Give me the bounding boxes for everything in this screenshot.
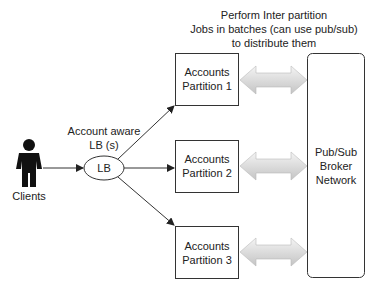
partition-2-line2: Partition 2 bbox=[182, 167, 232, 179]
partition-3-line1: Accounts bbox=[184, 240, 230, 252]
pubsub-broker-network: Pub/Sub Broker Network bbox=[308, 54, 365, 278]
broker-line3: Network bbox=[316, 174, 357, 186]
lb-caption-2: LB (s) bbox=[89, 139, 118, 151]
note-line-1: Perform Inter partition bbox=[221, 9, 327, 21]
partition-3-line2: Partition 3 bbox=[182, 254, 232, 266]
partition-2-line1: Accounts bbox=[184, 153, 230, 165]
double-arrow-1 bbox=[240, 66, 307, 94]
partition-1-line2: Partition 1 bbox=[182, 80, 232, 92]
lb-caption-1: Account aware bbox=[68, 125, 141, 137]
partition-1: Accounts Partition 1 bbox=[176, 54, 239, 106]
architecture-diagram: Perform Inter partition Jobs in batches … bbox=[0, 0, 379, 290]
partition-3: Accounts Partition 3 bbox=[176, 227, 239, 279]
partition-2: Accounts Partition 2 bbox=[176, 141, 239, 193]
lb-label: LB bbox=[97, 162, 110, 174]
broker-line2: Broker bbox=[320, 160, 353, 172]
clients-label: Clients bbox=[12, 190, 46, 202]
lb-to-partition3-arrow bbox=[118, 177, 174, 225]
broker-line1: Pub/Sub bbox=[315, 146, 357, 158]
note-line-3: to distribute them bbox=[232, 37, 316, 49]
note-line-2: Jobs in batches (can use pub/sub) bbox=[190, 23, 358, 35]
person-icon bbox=[16, 139, 42, 187]
double-arrow-3 bbox=[240, 238, 307, 266]
double-arrow-2 bbox=[240, 152, 307, 180]
partition-1-line1: Accounts bbox=[184, 66, 230, 78]
